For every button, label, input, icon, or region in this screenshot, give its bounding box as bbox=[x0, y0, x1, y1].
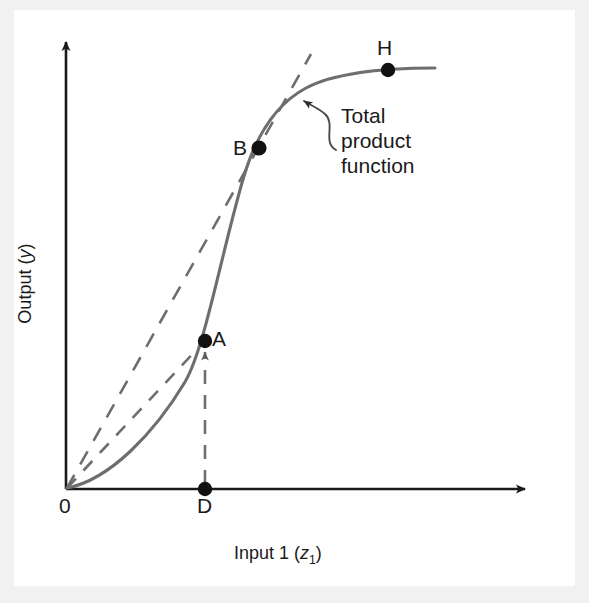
x-axis-label-variable: z bbox=[300, 543, 309, 563]
total-product-function-annotation: Total product function bbox=[341, 104, 415, 178]
point-label-d: D bbox=[197, 494, 212, 519]
y-axis-label-suffix: ) bbox=[15, 244, 35, 250]
x-axis-label-subscript: 1 bbox=[309, 553, 316, 567]
point-H bbox=[381, 63, 395, 77]
point-A bbox=[198, 334, 212, 348]
annotation-leader-line bbox=[304, 101, 336, 150]
x-axis-label: Input 1 (z1) bbox=[234, 543, 322, 567]
point-label-a: A bbox=[212, 327, 226, 352]
construction-lines-group bbox=[67, 54, 311, 488]
x-axis-label-suffix: ) bbox=[316, 543, 322, 563]
production-function-chart bbox=[0, 0, 589, 603]
y-axis-label-variable: y bbox=[15, 250, 35, 259]
ray-origin-through-b bbox=[67, 54, 311, 488]
point-B bbox=[251, 140, 266, 155]
point-label-h: H bbox=[377, 36, 392, 61]
axes-group bbox=[66, 42, 525, 489]
annotation-line-3: function bbox=[341, 154, 415, 179]
x-axis-label-prefix: Input 1 ( bbox=[234, 543, 300, 563]
point-label-b: B bbox=[233, 136, 247, 161]
y-axis-label: Output (y) bbox=[15, 214, 36, 354]
origin-label: 0 bbox=[59, 494, 71, 519]
figure-container: H B A D 0 Total product function Input 1… bbox=[0, 0, 589, 603]
annotation-line-2: product bbox=[341, 129, 415, 154]
annotation-line-1: Total bbox=[341, 104, 415, 129]
y-axis-label-prefix: Output ( bbox=[15, 259, 35, 324]
